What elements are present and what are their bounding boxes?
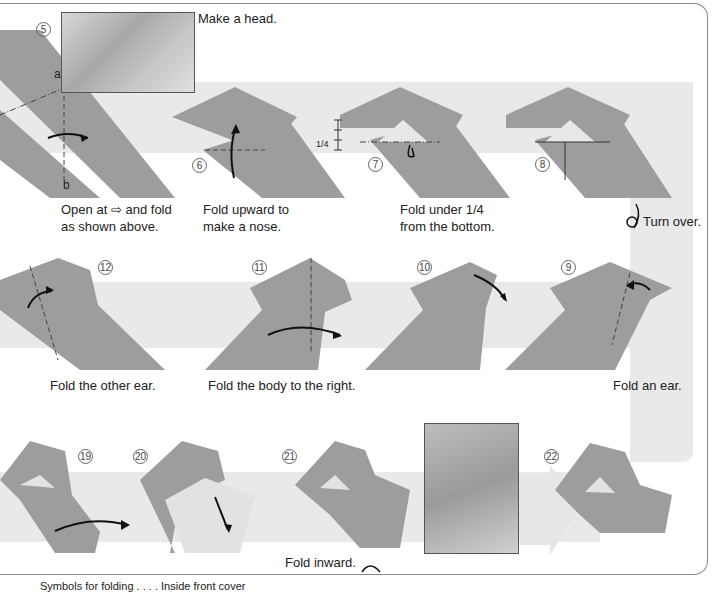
- step21-diagram: [295, 441, 410, 572]
- point-b-label: b: [63, 177, 70, 194]
- step11-caption: Fold the body to the right.: [208, 377, 355, 394]
- step11-diagram: [205, 258, 352, 370]
- step9-caption: Fold an ear.: [613, 377, 682, 394]
- step-number-19: 19: [78, 449, 93, 464]
- step7-diagram: [334, 87, 510, 198]
- step12-caption: Fold the other ear.: [50, 377, 156, 394]
- step19-diagram: [0, 441, 130, 553]
- step8-diagram: [506, 87, 672, 198]
- step5-title: Make a head.: [198, 10, 277, 27]
- step-number-10: 10: [417, 260, 432, 275]
- step-number-22: 22: [544, 449, 559, 464]
- step12-diagram: [0, 258, 165, 370]
- step7-caption: Fold under 1/4 from the bottom.: [400, 201, 495, 235]
- footer-text: Symbols for folding . . . . Inside front…: [40, 578, 245, 595]
- step-number-7: 7: [368, 157, 383, 172]
- step5-photo: [61, 12, 195, 93]
- turn-over-icon: [627, 204, 639, 228]
- step6-caption: Fold upward to make a nose.: [203, 201, 289, 235]
- quarter-measure-label: 1/4: [316, 136, 329, 153]
- step5-caption: Open at ⇨ and fold as shown above.: [61, 201, 172, 235]
- step9-diagram: [505, 262, 672, 370]
- step-number-21: 21: [282, 449, 297, 464]
- step-number-6: 6: [192, 158, 207, 173]
- step-number-5: 5: [36, 22, 51, 37]
- step21-caption: Fold inward.: [285, 554, 356, 571]
- turn-over-label: Turn over.: [643, 213, 701, 230]
- step22-diagram: [555, 443, 672, 533]
- step20-diagram: [140, 441, 255, 553]
- step10-diagram: [365, 262, 507, 370]
- step21-photo: [424, 423, 519, 554]
- step-number-11: 11: [252, 260, 267, 275]
- point-a-label: a: [54, 66, 61, 83]
- step-number-8: 8: [535, 157, 550, 172]
- step-number-9: 9: [561, 260, 576, 275]
- step-number-12: 12: [98, 260, 113, 275]
- step-number-20: 20: [133, 449, 148, 464]
